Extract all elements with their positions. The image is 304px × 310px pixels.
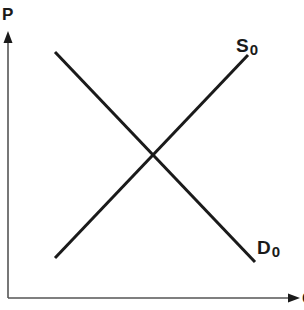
supply-curve-label: S0 bbox=[236, 36, 258, 55]
supply-curve-s0 bbox=[55, 55, 248, 258]
demand-curve-d0 bbox=[55, 52, 255, 262]
y-axis-label: P bbox=[2, 6, 13, 23]
y-axis-arrow-icon bbox=[4, 31, 13, 43]
supply-label-sub: 0 bbox=[250, 41, 258, 58]
supply-label-main: S bbox=[236, 35, 249, 56]
x-axis-label: Q bbox=[302, 290, 304, 307]
demand-label-sub: 0 bbox=[272, 243, 280, 260]
x-axis-arrow-icon bbox=[288, 294, 300, 303]
demand-label-main: D bbox=[257, 237, 271, 258]
supply-demand-diagram bbox=[0, 0, 304, 310]
demand-curve-label: D0 bbox=[257, 238, 280, 257]
